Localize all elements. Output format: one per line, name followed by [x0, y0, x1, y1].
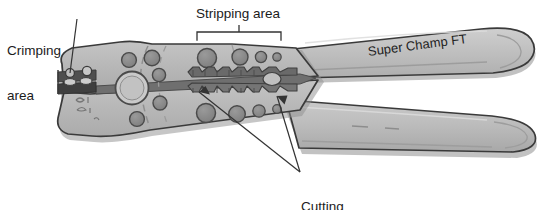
cutting-notch-eye — [263, 73, 281, 86]
gauge-hole-l4 — [229, 106, 246, 123]
lower-handle-mark-b — [385, 128, 399, 129]
label-cutting-area: Cutting area — [301, 169, 344, 210]
crimping-pilot-hole-2 — [82, 66, 91, 75]
gauge-hole-u6 — [273, 53, 281, 61]
pivot-inner — [120, 76, 144, 100]
gauge-hole-u4 — [232, 49, 248, 65]
figure-canvas: Crimping area Stripping area Cutting are… — [0, 0, 548, 210]
crimping-die-1 — [64, 79, 76, 86]
gauge-hole-l3 — [197, 104, 216, 123]
gauge-hole-u1 — [122, 53, 137, 68]
gauge-hole-l1 — [153, 96, 167, 110]
label-cutting-line1: Cutting — [301, 199, 344, 210]
gauge-hole-l5 — [253, 105, 265, 117]
gauge-hole-u5 — [255, 51, 266, 62]
label-crimping-line1: Crimping — [7, 43, 61, 58]
crimping-die-2 — [80, 78, 92, 85]
label-stripping-area: Stripping area — [196, 6, 280, 21]
lower-handle-mark-a — [352, 126, 368, 127]
lower-handle — [285, 100, 537, 158]
label-crimping-line2: area — [7, 88, 61, 103]
gauge-hole-l2 — [130, 112, 145, 127]
upper-handle — [293, 28, 536, 83]
stripping-bracket-path — [197, 32, 281, 40]
gauge-hole-u3 — [198, 49, 217, 68]
plier-head-body — [58, 41, 324, 142]
gauge-hole-u7 — [152, 68, 165, 81]
stripping-bracket — [197, 25, 281, 40]
label-crimping-area: Crimping area — [7, 13, 61, 133]
gauge-hole-u2 — [144, 50, 160, 66]
